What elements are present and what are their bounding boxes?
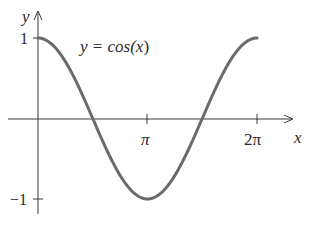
x-tick-label-2pi: 2π (244, 130, 262, 149)
equation-prefix: y = cos( (78, 37, 137, 56)
y-tick-label-1: 1 (20, 30, 28, 47)
y-tick-label-neg1: −1 (10, 191, 27, 208)
x-tick-label-pi: π (141, 130, 150, 149)
cosine-chart: y x 1 −1 π 2π y = cos(x) (0, 0, 312, 235)
equation-annotation: y = cos(x) (78, 37, 149, 56)
y-axis-label: y (20, 7, 30, 26)
x-axis-label: x (293, 128, 302, 147)
equation-suffix: ) (143, 37, 149, 56)
